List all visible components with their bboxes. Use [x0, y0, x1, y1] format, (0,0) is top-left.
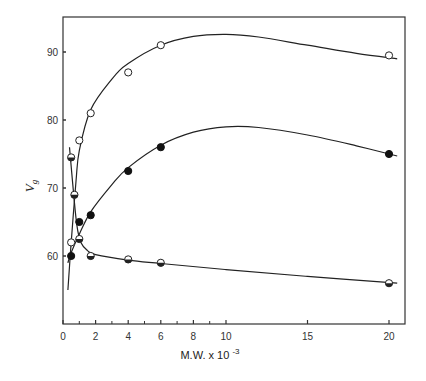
y-axis-title: Vg	[22, 179, 39, 192]
filled-circle-marker	[157, 144, 164, 151]
x-tick-label: 8	[191, 331, 197, 342]
open-circle-marker	[68, 239, 75, 246]
filled-circle-marker	[68, 252, 75, 259]
x-tick-label: 10	[220, 331, 232, 342]
filled-circles-curve	[68, 126, 397, 263]
x-axis-title: M.W. x 10 -3	[180, 347, 240, 361]
y-tick-label: 90	[47, 47, 59, 58]
filled-circle-marker	[125, 167, 132, 174]
plot-frame	[63, 17, 405, 324]
open-circles-curve	[68, 34, 397, 290]
half-filled-circle-marker	[68, 154, 75, 161]
filled-circle-marker	[76, 218, 83, 225]
x-tick-label: 15	[302, 331, 314, 342]
open-circle-marker	[87, 110, 94, 117]
open-circle-marker	[157, 42, 164, 49]
open-circle-marker	[125, 69, 132, 76]
filled-circle-marker	[385, 150, 392, 157]
x-axis-ticks: 02468101520	[60, 320, 395, 342]
half-filled-circle-marker	[157, 259, 164, 266]
half-filled-circle-marker	[125, 256, 132, 263]
x-tick-label: 20	[383, 331, 395, 342]
fitted-curves	[68, 34, 397, 290]
x-tick-label: 2	[93, 331, 99, 342]
x-tick-label: 4	[125, 331, 131, 342]
x-tick-label: 6	[158, 331, 164, 342]
data-markers	[68, 42, 393, 287]
open-circle-marker	[76, 137, 83, 144]
y-tick-label: 80	[47, 115, 59, 126]
y-tick-label: 60	[47, 251, 59, 262]
half-filled-circle-marker	[71, 191, 78, 198]
open-circle-marker	[385, 52, 392, 59]
filled-circle-marker	[87, 212, 94, 219]
chart: 02468101520 60708090 Vg M.W. x 10 -3	[0, 0, 426, 381]
half-filled-circle-marker	[87, 252, 94, 259]
half-filled-circle-marker	[385, 280, 392, 287]
x-tick-label: 0	[60, 331, 66, 342]
half-filled-circle-marker	[76, 235, 83, 242]
y-tick-label: 70	[47, 183, 59, 194]
half-filled-circles-curve	[70, 147, 398, 283]
